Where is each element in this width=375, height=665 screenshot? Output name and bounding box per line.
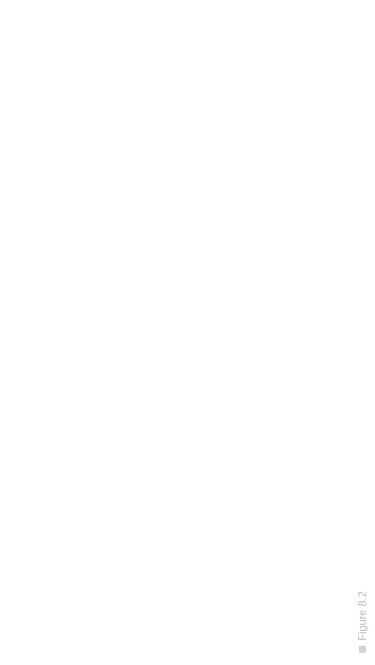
figure-caption: Figure 8.2: [353, 583, 371, 661]
caption-square-icon: [359, 646, 366, 653]
caption-text: Figure 8.2: [356, 591, 368, 641]
figure-page: Glucose XOS Longlive 95P XOS dp2 XOS dp2…: [0, 0, 375, 665]
